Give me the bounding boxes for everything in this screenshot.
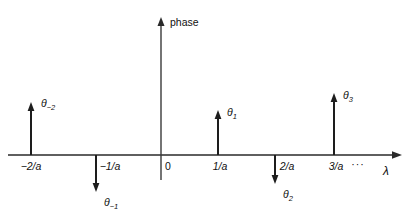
tick-label-3-a: 3/a	[329, 160, 344, 172]
theta-subscript: 1	[233, 112, 237, 121]
stem-theta-minus-2-label: θ−2	[41, 97, 56, 112]
stem-theta-minus-2: θ−2	[28, 97, 56, 155]
tick-label-1-a: 1/a	[213, 160, 228, 172]
figure-canvas: λ phase θ−2 θ−1	[0, 0, 417, 217]
lambda-axis-label: λ	[382, 164, 389, 178]
stem-theta-3-label: θ3	[343, 89, 354, 104]
stem-theta-minus-2-arrowhead	[28, 102, 35, 111]
stem-theta-2-label: θ2	[283, 188, 294, 203]
tick-label-zero: 0	[165, 160, 171, 172]
theta-subscript: −1	[110, 202, 119, 211]
stem-theta-minus-1-label: θ−1	[104, 196, 118, 211]
axis-ellipsis: ···	[351, 158, 365, 170]
theta-subscript: 3	[349, 95, 354, 104]
tick-label-minus-2-a: −2/a	[21, 160, 42, 172]
stem-theta-minus-1-arrowhead	[93, 183, 100, 192]
stem-theta-3-arrowhead	[331, 93, 338, 102]
phase-axis-label: phase	[170, 16, 199, 28]
phase-axis-arrowhead	[158, 17, 165, 26]
theta-subscript: 2	[288, 194, 294, 203]
lambda-axis-arrowhead	[392, 151, 402, 158]
stem-theta-2-arrowhead	[272, 175, 279, 184]
tick-label-2-a: 2/a	[279, 160, 295, 172]
stem-theta-1-arrowhead	[215, 110, 222, 119]
tick-label-minus-1-a: −1/a	[100, 160, 121, 172]
stem-theta-1-label: θ1	[227, 106, 237, 121]
stem-theta-1: θ1	[215, 106, 237, 155]
stem-theta-3: θ3	[331, 89, 354, 155]
theta-subscript: −2	[47, 103, 56, 112]
phase-stem-plot-figure: λ phase θ−2 θ−1	[0, 0, 417, 217]
tick-labels: −2/a −1/a 0 1/a 2/a 3/a ···	[21, 158, 365, 172]
